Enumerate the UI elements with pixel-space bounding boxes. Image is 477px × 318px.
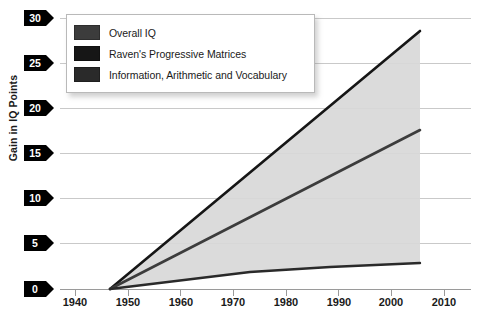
legend-item-ravens-progressive-matrices: Raven's Progressive Matrices bbox=[74, 43, 306, 64]
y-tick-5: 5 bbox=[24, 235, 46, 251]
legend-label-overall-iq: Overall IQ bbox=[109, 27, 156, 39]
x-tick-label-1960: 1960 bbox=[154, 296, 208, 308]
y-tick-15: 15 bbox=[24, 145, 46, 161]
legend-label-ravens-progressive-matrices: Raven's Progressive Matrices bbox=[109, 48, 246, 60]
x-tick-label-2000: 2000 bbox=[364, 296, 418, 308]
x-tick-label-1970: 1970 bbox=[206, 296, 260, 308]
x-tick-label-2010: 2010 bbox=[417, 296, 471, 308]
legend-swatch-overall-iq bbox=[74, 25, 100, 40]
legend-item-information-arithmetic-vocabulary: Information, Arithmetic and Vocabulary bbox=[74, 64, 306, 85]
x-tick-label-1980: 1980 bbox=[259, 296, 313, 308]
legend-label-information-arithmetic-vocabulary: Information, Arithmetic and Vocabulary bbox=[109, 69, 287, 81]
x-tick-label-1950: 1950 bbox=[101, 296, 155, 308]
y-tick-label-5: 5 bbox=[24, 235, 46, 251]
y-tick-label-10: 10 bbox=[24, 190, 46, 206]
y-tick-20: 20 bbox=[24, 100, 46, 116]
y-tick-label-20: 20 bbox=[24, 100, 46, 116]
x-axis-ticks bbox=[76, 289, 445, 296]
y-tick-10: 10 bbox=[24, 190, 46, 206]
y-tick-label-25: 25 bbox=[24, 55, 46, 71]
y-tick-25: 25 bbox=[24, 55, 46, 71]
y-tick-30: 30 bbox=[24, 10, 46, 26]
x-tick-label-1940: 1940 bbox=[48, 296, 102, 308]
legend-swatch-ravens-progressive-matrices bbox=[74, 46, 100, 61]
y-tick-label-30: 30 bbox=[24, 10, 46, 26]
y-tick-0: 0 bbox=[24, 281, 46, 297]
chart-legend: Overall IQ Raven's Progressive Matrices … bbox=[66, 14, 315, 93]
y-axis-title: Gain in IQ Points bbox=[7, 53, 19, 183]
y-tick-label-15: 15 bbox=[24, 145, 46, 161]
legend-item-overall-iq: Overall IQ bbox=[74, 22, 306, 43]
y-tick-label-0: 0 bbox=[24, 281, 46, 297]
legend-swatch-information-arithmetic-vocabulary bbox=[74, 67, 100, 82]
iq-gain-line-chart: Gain in IQ Points 30 25 20 15 10 5 0 194… bbox=[0, 0, 477, 318]
x-tick-label-1990: 1990 bbox=[312, 296, 366, 308]
